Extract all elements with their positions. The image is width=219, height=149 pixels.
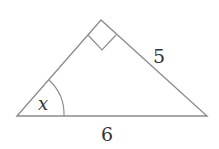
base-label-6: 6 [101, 123, 113, 145]
right-angle-marker [88, 35, 116, 50]
triangle-diagram: x 5 6 [0, 0, 219, 149]
side-label-5: 5 [153, 45, 165, 67]
angle-label-x: x [38, 93, 48, 114]
angle-arc [49, 80, 64, 116]
